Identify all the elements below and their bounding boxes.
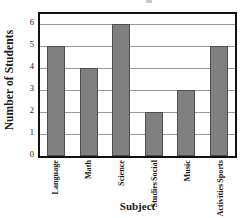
- y-tick-label-0: 0: [30, 150, 34, 159]
- bar-math[interactable]: [80, 68, 98, 156]
- y-tick-label-6: 6: [30, 18, 34, 27]
- bar-sports-activities[interactable]: [210, 46, 228, 156]
- bar-slot: [105, 14, 138, 156]
- y-axis-title: Number of Students: [0, 0, 18, 160]
- bar-slot: [73, 14, 106, 156]
- cropped-title-artifact: [146, 0, 152, 3]
- x-axis-title: Subject: [38, 200, 237, 212]
- y-tick-label-1: 1: [30, 128, 34, 137]
- bar-science[interactable]: [112, 24, 130, 156]
- x-tick-slot: SportsActivities: [204, 160, 237, 202]
- plot-inner: [40, 14, 235, 156]
- y-axis-title-text: Number of Students: [3, 30, 15, 131]
- x-tick-slot: Math: [71, 160, 104, 202]
- x-tick-slot: Science: [104, 160, 137, 202]
- x-tick-label-math: Math: [83, 160, 92, 179]
- x-tick-label-line: Math: [83, 160, 92, 179]
- bar-music[interactable]: [177, 90, 195, 156]
- y-tick-label-3: 3: [30, 84, 34, 93]
- bars-layer: [40, 14, 235, 156]
- x-tick-label-line: Music: [183, 160, 192, 181]
- bar-slot: [40, 14, 73, 156]
- bar-language[interactable]: [47, 46, 65, 156]
- y-tick-label-4: 4: [30, 62, 34, 71]
- y-tick-label-2: 2: [30, 106, 34, 115]
- x-tick-label-science: Science: [116, 160, 125, 186]
- bar-social-studies[interactable]: [145, 112, 163, 156]
- bar-chart-figure: Number of Students 0123456 LanguageMathS…: [0, 0, 246, 218]
- x-tick-label-music: Music: [183, 160, 192, 181]
- plot-area: [38, 12, 237, 158]
- x-tick-slot: SocialStudies: [138, 160, 171, 202]
- x-tick-label-line: Language: [50, 160, 59, 195]
- bar-slot: [138, 14, 171, 156]
- x-axis-tick-labels: LanguageMathScienceSocialStudiesMusicSpo…: [38, 160, 237, 202]
- x-tick-label-line: Science: [116, 160, 125, 186]
- x-tick-slot: Language: [38, 160, 71, 202]
- bar-slot: [170, 14, 203, 156]
- x-tick-slot: Music: [171, 160, 204, 202]
- y-tick-label-5: 5: [30, 40, 34, 49]
- x-tick-label-line: Social: [150, 160, 159, 181]
- x-tick-label-line: Sports: [216, 160, 225, 183]
- y-axis-tick-labels: 0123456: [18, 12, 36, 154]
- bar-slot: [203, 14, 236, 156]
- x-tick-label-language: Language: [50, 160, 59, 195]
